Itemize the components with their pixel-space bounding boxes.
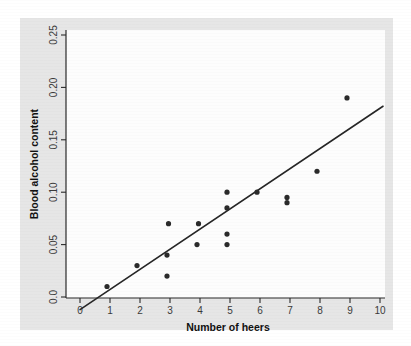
data-point <box>164 273 169 278</box>
x-tick-label: 8 <box>317 305 323 316</box>
x-tick-label: 0 <box>77 305 83 316</box>
x-tick-label: 3 <box>167 305 173 316</box>
plot-svg: 0.0 0.05 0.10 0.15 0.20 0.25 0 1 2 3 4 5… <box>0 0 411 346</box>
y-axis-ticks <box>61 35 66 297</box>
data-points-group <box>104 95 349 289</box>
data-point <box>224 242 229 247</box>
data-point <box>196 221 201 226</box>
data-point <box>164 252 169 257</box>
data-point <box>224 232 229 237</box>
x-tick-label: 4 <box>197 305 203 316</box>
y-tick-label: 0.10 <box>48 182 59 202</box>
y-tick-label: 0.25 <box>48 25 59 45</box>
x-tick-label: 1 <box>107 305 113 316</box>
x-axis-title: Number of heers <box>186 321 270 333</box>
x-tick-label: 6 <box>257 305 263 316</box>
y-axis-tick-labels: 0.0 0.05 0.10 0.15 0.20 0.25 <box>48 25 59 304</box>
data-point <box>284 195 289 200</box>
x-tick-label: 5 <box>227 305 233 316</box>
y-tick-label: 0.20 <box>48 77 59 97</box>
data-point <box>166 221 171 226</box>
x-tick-label: 10 <box>374 305 386 316</box>
data-point <box>104 284 109 289</box>
y-axis-title: Blood alcohol content <box>28 108 40 219</box>
x-tick-label: 2 <box>137 305 143 316</box>
regression-line-group <box>80 106 383 309</box>
data-point <box>224 205 229 210</box>
scatter-plot-figure: 0.0 0.05 0.10 0.15 0.20 0.25 0 1 2 3 4 5… <box>0 0 411 346</box>
x-tick-label: 7 <box>287 305 293 316</box>
x-tick-label: 9 <box>347 305 353 316</box>
data-point <box>194 242 199 247</box>
data-point <box>344 95 349 100</box>
data-point <box>314 169 319 174</box>
y-tick-label: 0.0 <box>48 290 59 304</box>
regression-line <box>80 106 383 309</box>
data-point <box>284 200 289 205</box>
x-axis-tick-labels: 0 1 2 3 4 5 6 7 8 9 10 <box>77 305 386 316</box>
y-tick-label: 0.05 <box>48 234 59 254</box>
y-tick-label: 0.15 <box>48 130 59 150</box>
x-axis-ticks <box>80 298 380 303</box>
data-point <box>134 263 139 268</box>
data-point <box>224 190 229 195</box>
data-point <box>254 190 259 195</box>
